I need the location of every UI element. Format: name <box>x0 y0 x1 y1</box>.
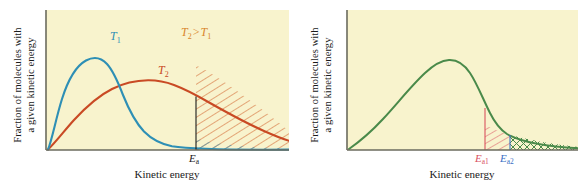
chart-panel-left: Fraction of molecules with a given kinet… <box>0 0 289 187</box>
tick-label-ea2-symbol: E <box>500 152 507 164</box>
y-axis-label-right-line2: a given kinetic energy <box>322 10 335 160</box>
x-axis-label-left: Kinetic energy <box>107 168 227 180</box>
chart-panel-right: Fraction of molecules with a given kinet… <box>289 0 578 187</box>
figure-kinetic-energy-distributions: Fraction of molecules with a given kinet… <box>0 0 578 187</box>
tick-label-ea2: Ea2 <box>500 152 514 164</box>
curve-label-t2-subscript: 2 <box>165 70 169 79</box>
tick-label-ea1-subscript: a1 <box>482 157 489 166</box>
plot-background-right <box>347 10 578 150</box>
plot-svg-left <box>0 0 289 187</box>
tick-label-ea: Ea <box>189 152 199 164</box>
y-axis-label-left-line2: a given kinetic energy <box>25 10 38 160</box>
y-axis-label-left-line1: Fraction of molecules with <box>12 27 23 142</box>
curve-label-t1-symbol: T <box>110 29 117 43</box>
curve-label-t1-subscript: 1 <box>117 36 121 45</box>
curve-label-t2: T2 <box>158 63 169 78</box>
curve-label-t2-symbol: T <box>158 63 165 77</box>
curve-label-t1: T1 <box>110 29 121 44</box>
annotation-right-subscript: 1 <box>207 32 211 41</box>
tick-label-ea-subscript: a <box>196 157 199 166</box>
tick-label-ea1: Ea1 <box>475 152 489 164</box>
annotation-left-symbol: T <box>181 25 188 39</box>
tick-label-ea1-symbol: E <box>475 152 482 164</box>
x-axis-label-right: Kinetic energy <box>402 168 522 180</box>
y-axis-label-left: Fraction of molecules with a given kinet… <box>12 10 37 160</box>
y-axis-label-right: Fraction of molecules with a given kinet… <box>309 10 334 160</box>
tick-label-ea2-subscript: a2 <box>507 157 514 166</box>
annotation-t2-greater-t1: T2>T1 <box>181 25 211 40</box>
tick-label-ea-symbol: E <box>189 152 196 164</box>
y-axis-label-right-line1: Fraction of molecules with <box>309 27 320 142</box>
annotation-left-subscript: 2 <box>188 32 192 41</box>
